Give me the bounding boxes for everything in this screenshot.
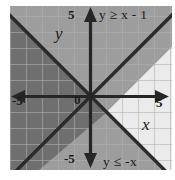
x-axis-tick-label-negative: -5: [12, 94, 23, 107]
plot-area: [10, 6, 172, 170]
y-axis-tick-label-negative: -5: [64, 152, 75, 165]
x-axis-tick-label-positive: 5: [156, 96, 163, 109]
graph-canvas: [10, 6, 172, 170]
y-axis-name-label: y: [55, 25, 63, 42]
inequality-graph-figure: 5 -5 5 -5 0 x y y ≥ x - 1 y ≤ -x: [0, 0, 175, 180]
origin-label: 0: [74, 93, 81, 106]
y-axis-tick-label-positive: 5: [68, 8, 75, 21]
x-axis-name-label: x: [142, 116, 150, 133]
inequality-label-lower: y ≤ -x: [103, 155, 137, 169]
inequality-label-upper: y ≥ x - 1: [99, 8, 147, 22]
